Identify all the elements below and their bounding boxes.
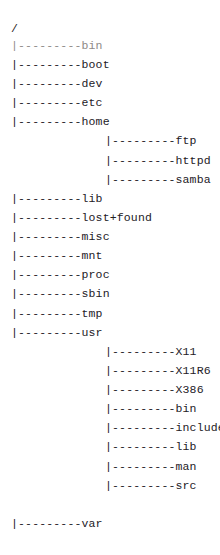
tree-row: |---------tmp bbox=[0, 307, 103, 321]
tree-row: |---------home bbox=[0, 115, 110, 129]
tree-row: |---------var bbox=[0, 517, 103, 531]
tree-row: |---------misc bbox=[0, 230, 110, 244]
tree-row: |---------X386 bbox=[0, 383, 204, 397]
tree-row: |---------lib bbox=[0, 440, 197, 454]
tree-row: |---------etc bbox=[0, 96, 103, 110]
tree-row: |---------src bbox=[0, 479, 197, 493]
tree-row: |---------ftp bbox=[0, 134, 197, 148]
tree-row: |---------proc bbox=[0, 268, 110, 282]
tree-row: |---------lib bbox=[0, 192, 103, 206]
tree-row: |---------samba bbox=[0, 173, 211, 187]
tree-row: |---------sbin bbox=[0, 287, 110, 301]
directory-tree: /|---------bin|---------boot|---------de… bbox=[0, 0, 220, 555]
tree-row: |---------mnt bbox=[0, 249, 103, 263]
tree-row: |---------dev bbox=[0, 77, 103, 91]
tree-row: |---------boot bbox=[0, 58, 110, 72]
tree-row: |---------man bbox=[0, 460, 197, 474]
tree-row: |---------usr bbox=[0, 326, 103, 340]
tree-row: |---------httpd bbox=[0, 154, 211, 168]
tree-row: |---------bin bbox=[0, 39, 103, 53]
tree-row: |---------X11 bbox=[0, 345, 197, 359]
tree-row: |---------lost+found bbox=[0, 211, 152, 225]
tree-root-label: / bbox=[0, 22, 18, 36]
tree-row: |---------include bbox=[0, 421, 220, 435]
tree-row: |---------X11R6 bbox=[0, 364, 211, 378]
tree-row: |---------bin bbox=[0, 402, 197, 416]
